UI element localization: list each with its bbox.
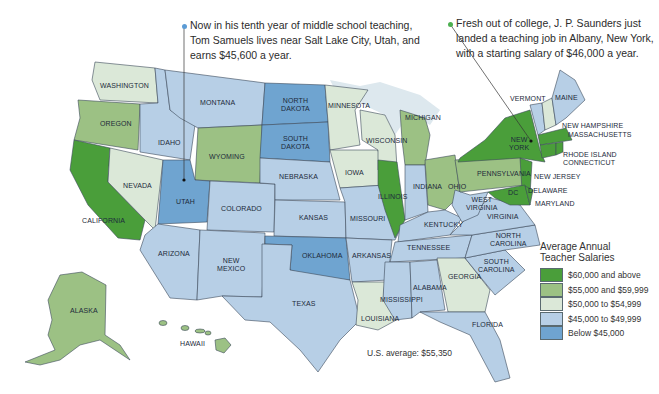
label-virginia: VIRGINIA — [487, 213, 519, 221]
label-nebraska: NEBRASKA — [279, 173, 318, 181]
legend-item: Below $45,000 — [540, 326, 648, 341]
label-new-mexico: NEW MEXICO — [217, 257, 245, 273]
label-minnesota: MINNESOTA — [328, 102, 370, 110]
label-kansas: KANSAS — [299, 214, 328, 222]
legend-item: $50,000 to $54,999 — [540, 297, 648, 312]
label-new-hampshire: NEW HAMPSHIRE — [562, 122, 623, 130]
label-utah: UTAH — [176, 198, 195, 206]
label-alabama: ALABAMA — [413, 284, 447, 292]
label-north-dakota: NORTH DAKOTA — [281, 97, 310, 113]
label-north-carolina: NORTH CAROLINA — [490, 232, 527, 248]
label-delaware: DELAWARE — [528, 187, 568, 195]
label-arizona: ARIZONA — [158, 250, 190, 258]
label-mississippi: MISSISSIPPI — [380, 296, 423, 304]
label-tennessee: TENNESSEE — [407, 244, 450, 252]
label-alaska: ALASKA — [70, 307, 98, 315]
label-indiana: INDIANA — [413, 183, 442, 191]
state-rhode-island — [556, 142, 563, 155]
label-vermont: VERMONT — [510, 95, 546, 103]
label-oklahoma: OKLAHOMA — [302, 252, 342, 260]
label-kentucky: KENTUCKY — [424, 221, 463, 229]
label-south-dakota: SOUTH DAKOTA — [281, 135, 310, 151]
label-new-jersey: NEW JERSEY — [534, 173, 581, 181]
legend-item: $45,000 to $49,999 — [540, 312, 648, 327]
legend-swatch-50k-54k — [540, 297, 563, 311]
label-illinois: ILLINOIS — [378, 193, 408, 201]
legend: Average Annual Teacher Salaries $60,000 … — [540, 242, 648, 341]
label-louisiana: LOUISIANA — [361, 315, 399, 323]
label-new-york: NEW YORK — [509, 136, 529, 152]
legend-title: Average Annual Teacher Salaries — [540, 242, 648, 263]
label-california: CALIFORNIA — [82, 217, 125, 225]
legend-swatch-45k-49k — [540, 312, 563, 326]
label-wisconsin: WISCONSIN — [366, 137, 407, 145]
state-hawaii — [159, 321, 231, 354]
legend-item: $60,000 and above — [540, 268, 648, 283]
label-michigan: MICHIGAN — [405, 114, 441, 122]
label-washington: WASHINGTON — [100, 82, 149, 90]
label-colorado: COLORADO — [221, 205, 262, 213]
label-wyoming: WYOMING — [209, 153, 245, 161]
label-maryland: MARYLAND — [535, 200, 575, 208]
label-massachusetts: MASSACHUSETTS — [568, 131, 632, 139]
label-nevada: NEVADA — [123, 182, 152, 190]
legend-item: $55,000 and $59,999 — [540, 283, 648, 298]
label-west-virginia: WEST VIRGINIA — [466, 196, 498, 212]
label-texas: TEXAS — [292, 300, 315, 308]
legend-swatch-below-45k — [540, 326, 563, 340]
label-idaho: IDAHO — [158, 139, 181, 147]
state-indiana — [405, 165, 428, 220]
label-pennsylvania: PENNSYLVANIA — [477, 170, 531, 178]
legend-swatch-60k-plus — [540, 268, 563, 282]
label-montana: MONTANA — [200, 99, 235, 107]
new-york-callout-dot-icon — [448, 22, 453, 27]
label-south-carolina: SOUTH CAROLINA — [478, 258, 515, 274]
label-oregon: OREGON — [100, 120, 132, 128]
legend-swatch-55k-59k — [540, 283, 563, 297]
label-connecticut: CONNECTICUT — [563, 159, 615, 167]
state-connecticut — [540, 143, 556, 158]
label-hawaii: HAWAII — [180, 340, 205, 348]
state-arizona — [140, 224, 200, 300]
label-arkansas: ARKANSAS — [352, 252, 391, 260]
utah-callout: Now in his tenth year of middle school t… — [190, 18, 420, 63]
label-missouri: MISSOURI — [350, 215, 385, 223]
state-alaska — [25, 272, 130, 365]
label-dc: DC — [508, 189, 518, 197]
state-new-york — [458, 110, 545, 162]
label-georgia: GEORGIA — [448, 273, 481, 281]
us-average-label: U.S. average: $55,350 — [367, 348, 452, 358]
label-maine: MAINE — [555, 94, 578, 102]
label-rhode-island: RHODE ISLAND — [563, 151, 617, 159]
new-york-callout: Fresh out of college, J. P. Saunders jus… — [456, 16, 654, 61]
label-iowa: IOWA — [345, 169, 364, 177]
label-ohio: OHIO — [448, 183, 466, 191]
label-florida: FLORIDA — [472, 321, 503, 329]
utah-callout-dot-icon — [182, 24, 187, 29]
